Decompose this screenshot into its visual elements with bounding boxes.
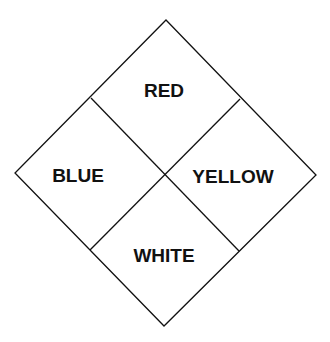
quadrant-left-label: BLUE	[52, 165, 104, 186]
hazard-diamond: RED BLUE YELLOW WHITE	[0, 0, 330, 342]
quadrant-right-label: YELLOW	[192, 166, 273, 187]
quadrant-top-label: RED	[144, 80, 184, 101]
quadrant-bottom-label: WHITE	[133, 245, 194, 266]
